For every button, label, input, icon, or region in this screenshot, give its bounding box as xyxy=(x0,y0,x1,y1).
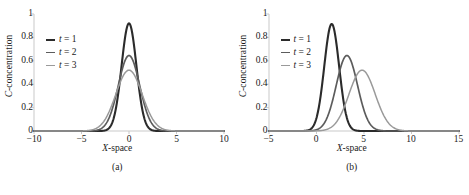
x-axis-label-a: X-space xyxy=(0,143,235,153)
y-tick-label: 1 xyxy=(244,9,268,19)
legend-b: t = 1t = 2t = 3 xyxy=(281,33,312,72)
y-tick-label: 0.2 xyxy=(244,103,268,113)
legend-item-label: t = 2 xyxy=(294,48,312,58)
legend-item[interactable]: t = 2 xyxy=(281,46,312,59)
y-tick-label: 0.2 xyxy=(9,103,33,113)
y-tick-label: 0.8 xyxy=(9,33,33,43)
y-axis-ticks-a: 00.20.40.60.81 xyxy=(5,0,33,132)
y-tick-label: 0.6 xyxy=(9,56,33,66)
figure-two-panel-diffusion: C-concentration 00.20.40.60.81 t = 1t = … xyxy=(0,0,469,195)
legend-line-swatch-icon xyxy=(281,39,290,41)
y-tick-label: 0.6 xyxy=(244,56,268,66)
legend-a: t = 1t = 2t = 3 xyxy=(46,33,77,72)
legend-line-swatch-icon xyxy=(46,52,55,53)
legend-item[interactable]: t = 1 xyxy=(281,33,312,46)
legend-item-label: t = 3 xyxy=(294,61,312,71)
legend-line-swatch-icon xyxy=(281,52,290,53)
plot-area-a: C-concentration 00.20.40.60.81 t = 1t = … xyxy=(0,0,235,160)
panel-a: C-concentration 00.20.40.60.81 t = 1t = … xyxy=(0,0,235,195)
panel-b: C-concentration 00.20.40.60.81 t = 1t = … xyxy=(235,0,469,195)
y-tick-label: 1 xyxy=(9,9,33,19)
y-tick-label: 0.8 xyxy=(244,33,268,43)
y-tick-label: 0.4 xyxy=(244,79,268,89)
legend-line-swatch-icon xyxy=(281,65,290,66)
legend-item[interactable]: t = 1 xyxy=(46,33,77,46)
panel-caption-a: (a) xyxy=(0,162,235,172)
y-tick-label: 0.4 xyxy=(9,79,33,89)
panel-caption-b: (b) xyxy=(235,162,469,172)
legend-item-label: t = 3 xyxy=(59,61,77,71)
legend-line-swatch-icon xyxy=(46,65,55,66)
legend-item-label: t = 1 xyxy=(59,35,77,45)
plot-area-b: C-concentration 00.20.40.60.81 t = 1t = … xyxy=(235,0,469,160)
legend-item[interactable]: t = 2 xyxy=(46,46,77,59)
y-axis-ticks-b: 00.20.40.60.81 xyxy=(240,0,268,132)
legend-item[interactable]: t = 3 xyxy=(281,59,312,72)
legend-item[interactable]: t = 3 xyxy=(46,59,77,72)
legend-item-label: t = 1 xyxy=(294,35,312,45)
legend-item-label: t = 2 xyxy=(59,48,77,58)
legend-line-swatch-icon xyxy=(46,39,55,41)
x-axis-label-b: X-space xyxy=(235,143,469,153)
